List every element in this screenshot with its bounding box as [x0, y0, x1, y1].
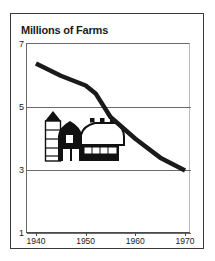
barn-window-icon: [66, 135, 73, 143]
chart-figure: Millions of Farms 1357: [0, 0, 215, 261]
barn-door-icon: [63, 149, 70, 161]
y-tick-label-5: 5: [19, 103, 24, 112]
gridline-y-5: [27, 107, 191, 108]
y-tick-label-1: 1: [19, 229, 24, 238]
farm-barn-icon: [39, 109, 127, 167]
gridline-y-3: [27, 170, 191, 171]
roof-vent-icon: [100, 118, 105, 123]
roof-vent-icon: [110, 118, 115, 123]
y-tick-label-3: 3: [19, 166, 24, 175]
gridline-y-1: [27, 233, 191, 234]
roof-vent-icon: [90, 118, 95, 123]
y-tick-label-7: 7: [19, 40, 24, 49]
silo-roof-icon: [45, 111, 61, 121]
x-tick-label-1940: 1940: [26, 237, 45, 246]
chart-title: Millions of Farms: [21, 24, 108, 36]
x-tick-label-1960: 1960: [126, 237, 145, 246]
barn-door-icon: [72, 149, 79, 161]
barn-roof-icon: [81, 123, 124, 145]
barn-group: [58, 118, 124, 161]
x-tick-label-1970: 1970: [176, 237, 195, 246]
x-tick-label-1950: 1950: [76, 237, 95, 246]
x-axis-line: [26, 232, 190, 233]
